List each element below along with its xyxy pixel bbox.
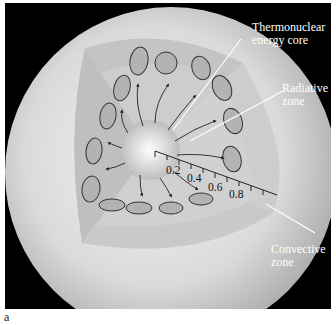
diagram-panel: Thermonuclear energy core Radiative zone… bbox=[5, 3, 331, 309]
radiative-zone-label: Radiative zone bbox=[282, 82, 328, 108]
scale-tick-0-2: 0.2 bbox=[166, 164, 180, 176]
scale-tick-0-6: 0.6 bbox=[208, 181, 222, 193]
core-label-line2: energy core bbox=[252, 34, 325, 47]
scale-tick-0-8: 0.8 bbox=[229, 188, 243, 200]
figure-panel-label: a bbox=[4, 310, 9, 325]
core-label: Thermonuclear energy core bbox=[252, 21, 325, 47]
scale-tick-0-4: 0.4 bbox=[187, 172, 201, 184]
convective-zone-label: Convective zone bbox=[271, 243, 326, 269]
convective-label-line2: zone bbox=[271, 256, 326, 269]
radiative-label-line2: zone bbox=[282, 95, 328, 108]
